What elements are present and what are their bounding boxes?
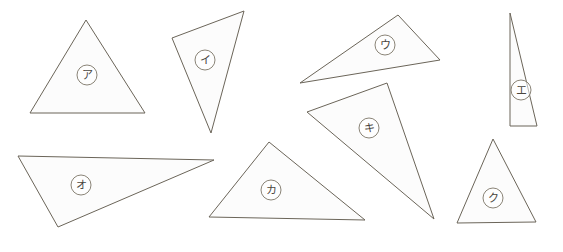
triangle-o-outline[interactable] bbox=[18, 156, 214, 227]
triangle-ka-label-text: カ bbox=[266, 184, 277, 197]
triangle-i-outline[interactable] bbox=[172, 11, 244, 133]
triangle-i-label-text: イ bbox=[200, 54, 211, 67]
triangle-ku-label-text: ク bbox=[488, 192, 499, 205]
worksheet-canvas: ア イ ウ エ オ カ キ bbox=[0, 0, 563, 252]
triangle-ki-label-text: キ bbox=[364, 122, 375, 135]
triangle-e-label-text: エ bbox=[516, 84, 527, 97]
shape-group-triangle-e[interactable]: エ bbox=[510, 13, 537, 126]
shape-group-triangle-ka[interactable]: カ bbox=[209, 142, 365, 220]
triangle-u-outline[interactable] bbox=[300, 15, 440, 83]
shape-group-triangle-ku[interactable]: ク bbox=[457, 139, 536, 223]
shape-group-triangle-i[interactable]: イ bbox=[172, 11, 244, 133]
shape-group-triangle-a[interactable]: ア bbox=[30, 20, 145, 113]
triangle-o-label-text: オ bbox=[76, 179, 87, 192]
triangle-e-outline[interactable] bbox=[510, 13, 537, 126]
triangle-a-label-text: ア bbox=[82, 69, 93, 82]
triangle-u-label-text: ウ bbox=[380, 39, 391, 52]
triangle-ka-outline[interactable] bbox=[209, 142, 365, 220]
shape-group-triangle-u[interactable]: ウ bbox=[300, 15, 440, 83]
triangles-figure: ア イ ウ エ オ カ キ bbox=[0, 0, 563, 252]
shape-group-triangle-o[interactable]: オ bbox=[18, 156, 214, 227]
triangle-ku-outline[interactable] bbox=[457, 139, 536, 223]
